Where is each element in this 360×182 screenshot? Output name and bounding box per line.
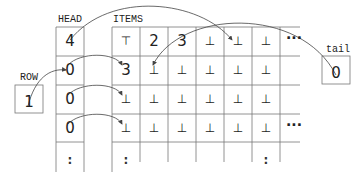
item-cell: ⊥ xyxy=(140,85,168,113)
item-cell: ⊥ xyxy=(112,85,140,113)
row-value: 1 xyxy=(15,88,43,116)
items-vdots: : xyxy=(252,146,280,174)
head-cell: 0 xyxy=(56,85,84,113)
head-cell: 4 xyxy=(56,27,84,55)
item-cell: ⊥ xyxy=(168,85,196,113)
item-cell: ⊥ xyxy=(252,27,280,55)
item-cell: 3 xyxy=(168,27,196,55)
item-cell: ⊥ xyxy=(196,85,224,113)
row-label: ROW xyxy=(20,72,38,83)
item-cell: 2 xyxy=(140,27,168,55)
row3-ellipsis: ... xyxy=(280,107,308,135)
item-cell: ⊥ xyxy=(196,27,224,55)
head-cell: 0 xyxy=(56,56,84,84)
tail-label: tail xyxy=(326,44,350,55)
item-cell: ⊥ xyxy=(140,56,168,84)
item-cell: ⊥ xyxy=(224,114,252,142)
items-label: ITEMS xyxy=(113,14,143,25)
item-cell: ⊥ xyxy=(168,114,196,142)
item-cell: ⊥ xyxy=(112,114,140,142)
item-cell: ⊥ xyxy=(224,56,252,84)
row0-ellipsis: ... xyxy=(280,20,308,48)
head-cell: 0 xyxy=(56,114,84,142)
item-cell: 3 xyxy=(112,56,140,84)
items-vdots: : xyxy=(112,146,140,174)
item-cell: ⊤ xyxy=(112,27,140,55)
item-cell: ⊥ xyxy=(252,114,280,142)
item-cell: ⊥ xyxy=(140,114,168,142)
tail-value: 0 xyxy=(322,59,350,87)
item-cell: ⊥ xyxy=(196,114,224,142)
item-cell: ⊥ xyxy=(252,85,280,113)
item-cell: ⊥ xyxy=(252,56,280,84)
item-cell: ⊥ xyxy=(224,85,252,113)
item-cell: ⊥ xyxy=(196,56,224,84)
item-cell: ⊥ xyxy=(224,27,252,55)
head-label: HEAD xyxy=(58,14,82,25)
item-cell: ⊥ xyxy=(168,56,196,84)
head-vdots: : xyxy=(56,146,84,174)
